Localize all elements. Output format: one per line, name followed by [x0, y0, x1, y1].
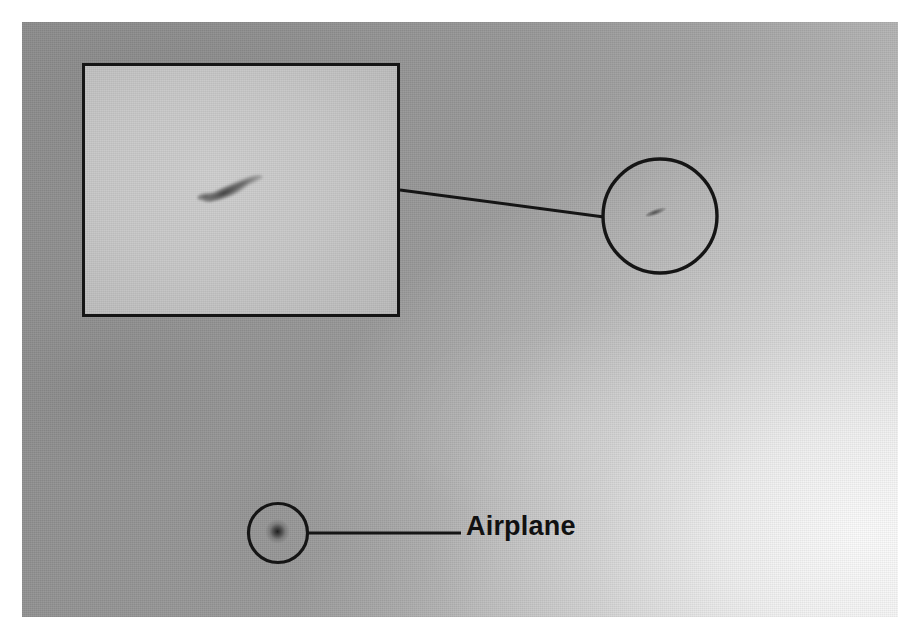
- lower-circle-airplane-blob: [265, 519, 290, 544]
- sky-photograph: [22, 22, 898, 617]
- magnified-inset-panel: [82, 63, 400, 317]
- airplane-label: Airplane: [466, 513, 576, 540]
- figure-root: Airplane: [0, 0, 915, 635]
